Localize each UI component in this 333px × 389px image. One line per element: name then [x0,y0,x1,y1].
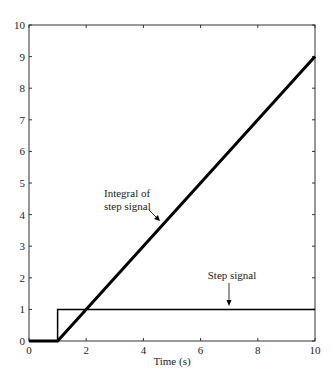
integral-annotation-label: Integral ofstep signal [104,187,151,212]
plot-frame [29,25,315,341]
y-tick-label: 9 [20,51,26,63]
y-tick-label: 5 [20,177,26,189]
y-tick-label: 3 [20,240,26,252]
axis-ticks [29,25,315,341]
chart: 0246810012345678910 Integral ofstep sign… [0,0,333,389]
y-tick-label: 4 [20,209,26,221]
data-series [29,57,315,341]
tick-labels: 0246810012345678910 [14,19,321,356]
plot-box [29,25,315,341]
y-tick-label: 8 [20,82,26,94]
x-tick-label: 4 [141,344,147,356]
y-tick-label: 2 [20,272,26,284]
y-tick-label: 10 [14,19,26,31]
x-tick-label: 10 [310,344,322,356]
x-axis-title: Time (s) [153,355,191,368]
step-annotation-label: Step signal [208,269,257,281]
integral-line [29,57,315,341]
arrowhead-icon [227,300,232,306]
y-tick-label: 1 [20,303,26,315]
x-tick-label: 0 [26,344,32,356]
y-tick-label: 7 [20,114,26,126]
x-tick-label: 8 [255,344,261,356]
x-tick-label: 2 [83,344,89,356]
y-tick-label: 6 [20,145,26,157]
y-tick-label: 0 [20,335,26,347]
x-tick-label: 6 [198,344,204,356]
